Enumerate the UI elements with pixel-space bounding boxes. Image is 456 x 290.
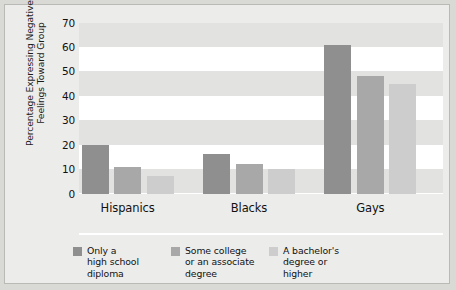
legend-separator (79, 233, 443, 235)
legend-item: Some college or an associate degree (171, 245, 254, 279)
legend-label: A bachelor's degree or higher (283, 245, 339, 279)
y-axis-tick-label: 20 (62, 139, 75, 151)
x-axis-group-label: Hispanics (101, 201, 155, 215)
y-axis-tick-label: 70 (62, 17, 75, 29)
y-axis-tick-labels: 010203040506070 (45, 15, 75, 200)
legend-item: Only a high school diploma (73, 245, 139, 279)
legend-swatch-icon (171, 247, 180, 256)
legend-swatch-icon (73, 247, 82, 256)
x-axis-group-label: Gays (356, 201, 384, 215)
bar (236, 164, 263, 193)
y-axis-tick-label: 40 (62, 90, 75, 102)
y-axis-tick-label: 60 (62, 41, 75, 53)
legend-swatch-icon (269, 247, 278, 256)
bar (324, 45, 351, 194)
bar (389, 84, 416, 194)
chart-legend: Only a high school diplomaSome college o… (73, 245, 443, 285)
bar (203, 154, 230, 193)
legend-label: Some college or an associate degree (185, 245, 254, 279)
bar-series-container (79, 23, 443, 194)
y-axis-tick-label: 10 (62, 163, 75, 175)
y-axis-tick-label: 50 (62, 65, 75, 77)
bar (147, 176, 174, 193)
bar (82, 145, 109, 194)
x-axis-group-label: Blacks (231, 201, 268, 215)
legend-item: A bachelor's degree or higher (269, 245, 339, 279)
y-axis-tick-label: 30 (62, 114, 75, 126)
bar (114, 167, 141, 194)
plot-area (79, 23, 443, 194)
legend-label: Only a high school diploma (87, 245, 139, 279)
bar (357, 76, 384, 193)
y-axis-tick-label: 0 (69, 188, 75, 200)
chart-figure: Percentage Expressing Negative Feelings … (4, 4, 450, 284)
y-axis-title-line-1: Percentage Expressing Negative (24, 0, 36, 146)
bar (268, 169, 295, 193)
